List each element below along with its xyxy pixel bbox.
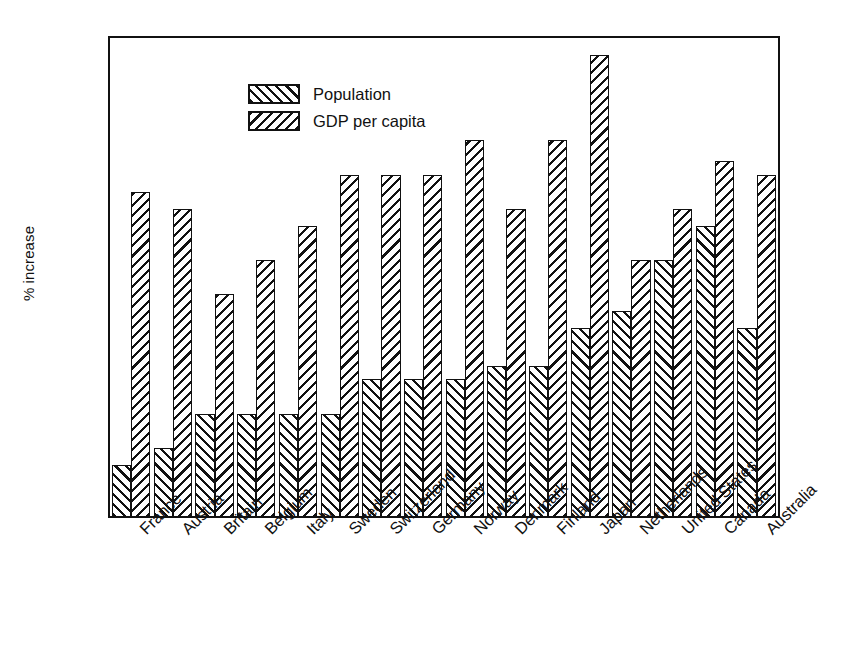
bar-group [277,38,319,516]
bar-gdp-per-capita [381,175,400,516]
bar-gdp-per-capita [298,226,317,516]
bar-population [571,328,590,516]
bar-group [694,38,736,516]
bar-group [652,38,694,516]
bar-chart-figure: % increase 2.82.62.42.22.01.81.61.41.21.… [0,0,845,646]
bar-gdp-per-capita [506,209,525,516]
bar-group [110,38,152,516]
bar-group [152,38,194,516]
bar-gdp-per-capita [131,192,150,516]
bar-population [654,260,673,516]
bar-group [569,38,611,516]
bar-group [736,38,778,516]
bar-group [444,38,486,516]
y-axis-title: % increase [20,184,37,344]
bar-gdp-per-capita [173,209,192,516]
bar-gdp-per-capita [715,161,734,516]
bar-group [527,38,569,516]
bar-group [402,38,444,516]
bar-gdp-per-capita [757,175,776,516]
bar-gdp-per-capita [631,260,650,516]
bar-gdp-per-capita [340,175,359,516]
bar-group [486,38,528,516]
bar-group [319,38,361,516]
bar-group [194,38,236,516]
bar-group [235,38,277,516]
bar-gdp-per-capita [590,55,609,516]
bar-groups [110,38,777,516]
bar-gdp-per-capita [548,140,567,516]
bar-gdp-per-capita [215,294,234,516]
bar-gdp-per-capita [423,175,442,516]
bar-gdp-per-capita [465,140,484,516]
bar-population [612,311,631,516]
bar-group [611,38,653,516]
bar-population [112,465,131,516]
x-axis-labels: FranceAustriaBritainBelgiumItalySwedenSw… [110,521,777,643]
bar-gdp-per-capita [256,260,275,516]
bar-group [361,38,403,516]
bar-population [321,414,340,516]
